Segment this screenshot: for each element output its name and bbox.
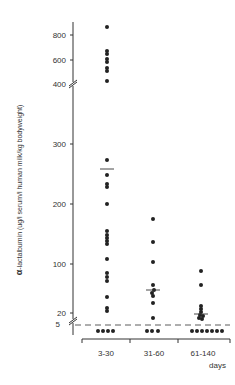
svg-text:300: 300 xyxy=(53,140,67,149)
svg-text:800: 800 xyxy=(53,31,67,40)
series-61-140-points xyxy=(190,269,224,333)
svg-text:5: 5 xyxy=(56,320,61,329)
x-axis-label: days xyxy=(209,361,226,370)
svg-text:400: 400 xyxy=(53,80,67,89)
y-axis-label: α-lactalbumin (ug/l serum/l human milk/k… xyxy=(14,105,24,276)
svg-text:20: 20 xyxy=(57,309,66,318)
scatter-chart: 800 600 400 300 200 100 20 5 α-lactalbum… xyxy=(0,0,235,385)
svg-text:61-140: 61-140 xyxy=(191,349,216,358)
svg-text:31-60: 31-60 xyxy=(144,349,165,358)
series-3-30-points xyxy=(96,25,115,333)
svg-text:600: 600 xyxy=(53,56,67,65)
svg-text:100: 100 xyxy=(53,260,67,269)
svg-text:3-30: 3-30 xyxy=(98,349,115,358)
x-axis xyxy=(82,339,230,343)
svg-text:200: 200 xyxy=(53,200,67,209)
x-category-labels: 3-30 31-60 61-140 xyxy=(98,349,216,358)
y-tick-labels: 800 600 400 300 200 100 20 5 xyxy=(53,31,67,329)
series-31-60-points xyxy=(145,217,160,333)
